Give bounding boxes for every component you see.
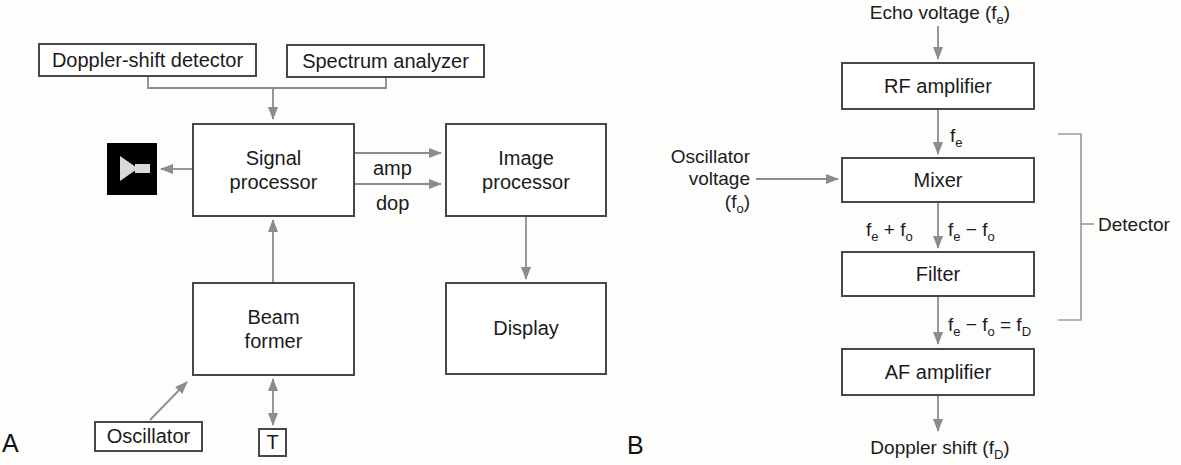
box-filter: Filter — [841, 251, 1035, 297]
fe-minus-fo-equals-fd-label: fe − fo = fD — [948, 314, 1031, 336]
echo-voltage-label: Echo voltage (fe) — [845, 2, 1035, 24]
box-filter-label: Filter — [916, 262, 960, 286]
box-image-processor-label: Image processor — [470, 146, 582, 195]
box-beam-former: Beam former — [192, 282, 355, 376]
oscillator-voltage-line3: (fo) — [655, 191, 750, 213]
amp-arrow-label: amp — [373, 156, 423, 180]
box-rf-amplifier-label: RF amplifier — [884, 74, 992, 98]
panel-a-letter: A — [2, 429, 19, 458]
box-oscillator: Oscillator — [94, 421, 203, 452]
fe-label: fe — [950, 125, 963, 147]
box-transducer: T — [258, 428, 287, 457]
box-beam-former-label: Beam former — [218, 305, 330, 354]
panel-b-letter: B — [627, 431, 644, 460]
box-image-processor: Image processor — [445, 123, 607, 217]
box-spectrum-analyzer: Spectrum analyzer — [286, 44, 485, 78]
box-mixer: Mixer — [841, 157, 1035, 203]
box-rf-amplifier: RF amplifier — [841, 62, 1035, 110]
oscillator-voltage-line1: Oscillator — [655, 146, 750, 168]
box-signal-processor: Signal processor — [192, 123, 355, 217]
box-doppler-shift-detector-label: Doppler-shift detector — [52, 48, 243, 72]
connector-detector-analyzer-bracket — [148, 77, 386, 88]
loudspeaker-icon — [107, 143, 157, 195]
figure-doppler-instrument-diagrams: Doppler-shift detector Spectrum analyzer… — [0, 0, 1181, 465]
box-doppler-shift-detector: Doppler-shift detector — [38, 43, 257, 77]
detector-bracket-label: Detector — [1098, 214, 1170, 237]
box-transducer-label: T — [266, 430, 278, 454]
box-display-label: Display — [493, 316, 559, 340]
arrow-oscillator-to-beam-former — [150, 382, 187, 420]
box-signal-processor-label: Signal processor — [218, 146, 330, 195]
box-display: Display — [445, 282, 607, 375]
box-oscillator-label: Oscillator — [107, 424, 190, 448]
detector-bracket — [1058, 134, 1081, 320]
box-af-amplifier-label: AF amplifier — [885, 360, 992, 384]
oscillator-voltage-label: Oscillator voltage (fo) — [655, 146, 750, 213]
oscillator-voltage-line2: voltage — [655, 168, 750, 190]
box-spectrum-analyzer-label: Spectrum analyzer — [302, 49, 469, 73]
box-mixer-label: Mixer — [914, 168, 963, 192]
fe-plus-fo-label: fe + fo — [866, 219, 913, 241]
fe-minus-fo-label: fe − fo — [948, 219, 995, 241]
box-af-amplifier: AF amplifier — [841, 348, 1035, 396]
dop-arrow-label: dop — [376, 191, 426, 215]
doppler-shift-output-label: Doppler shift (fD) — [850, 437, 1030, 459]
